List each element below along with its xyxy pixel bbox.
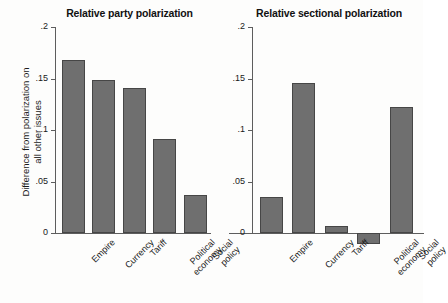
x-axis-category-label: Empire xyxy=(288,238,315,265)
x-axis-category-label: Currency xyxy=(323,238,356,271)
y-axis-tick-right xyxy=(248,130,252,131)
y-axis-tick-label-right: .15 xyxy=(219,73,245,83)
x-axis-category-label: Empire xyxy=(90,238,117,265)
plot-area-left xyxy=(56,27,208,233)
y-axis-tick-left xyxy=(51,79,55,80)
y-axis-tick-left xyxy=(51,233,55,234)
y-axis-tick-left xyxy=(51,27,55,28)
bar[interactable] xyxy=(325,226,348,233)
bar[interactable] xyxy=(184,195,207,233)
panel-relative-party-polarization: Relative party polarization 0.05.1.15.2E… xyxy=(0,0,215,303)
y-axis-tick-right xyxy=(248,79,252,80)
panel-title-right: Relative sectional polarization xyxy=(215,7,433,19)
y-axis-tick-label-left: .1 xyxy=(22,124,48,134)
bar[interactable] xyxy=(62,60,85,233)
y-axis-tick-right xyxy=(248,233,252,234)
x-axis-zero-line-left xyxy=(51,233,211,234)
panel-relative-sectional-polarization: Relative sectional polarization 0.05.1.1… xyxy=(215,0,423,303)
x-axis-category-label: Social policy xyxy=(417,238,448,269)
bar[interactable] xyxy=(92,80,115,233)
plot-area-right xyxy=(253,27,416,233)
y-axis-tick-right xyxy=(248,27,252,28)
bar[interactable] xyxy=(260,197,283,233)
y-axis-tick-label-left: .15 xyxy=(22,73,48,83)
bar[interactable] xyxy=(292,83,315,233)
y-axis-tick-label-right: .05 xyxy=(219,176,245,186)
bar[interactable] xyxy=(153,139,176,233)
y-axis-tick-left xyxy=(51,182,55,183)
bar[interactable] xyxy=(390,107,413,233)
y-axis-tick-label-right: .2 xyxy=(219,21,245,31)
y-axis-tick-label-right: 0 xyxy=(219,227,245,237)
y-axis-tick-label-left: .05 xyxy=(22,176,48,186)
x-axis-zero-line-right xyxy=(229,233,424,234)
y-axis-tick-left xyxy=(51,130,55,131)
panel-title-left: Relative party polarization xyxy=(0,7,237,19)
y-axis-tick-label-left: .2 xyxy=(22,21,48,31)
bar[interactable] xyxy=(123,88,146,233)
y-axis-tick-label-left: 0 xyxy=(22,227,48,237)
y-axis-tick-right xyxy=(248,182,252,183)
y-axis-tick-label-right: .1 xyxy=(219,124,245,134)
